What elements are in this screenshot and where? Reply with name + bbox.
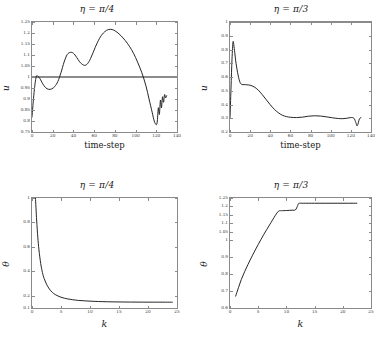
plot-area: 0.750.80.850.90.9511.051.11.151.21.25020… (31, 21, 178, 133)
y-axis-label: θ (1, 261, 11, 266)
y-tick-label: 0.5 (221, 89, 228, 93)
y-tick-mark (230, 274, 233, 275)
y-tick-mark (369, 215, 372, 216)
figure-container: η = π/4 u 0.750.80.850.90.9511.051.11.15… (0, 0, 388, 352)
x-tick-mark (250, 130, 251, 133)
y-tick-label: 1.05 (219, 230, 228, 234)
x-tick-mark (177, 130, 178, 133)
y-tick-label: 1.1 (221, 221, 228, 225)
x-tick-mark (177, 198, 178, 201)
y-tick-mark (32, 88, 35, 89)
x-tick-label: 25 (368, 310, 373, 314)
x-tick-mark (315, 198, 316, 201)
y-tick-label: 0.8 (23, 119, 30, 123)
y-tick-mark (175, 66, 178, 67)
y-tick-mark (369, 206, 372, 207)
x-tick-mark (331, 22, 332, 25)
y-tick-label: 0.4 (23, 269, 30, 273)
y-tick-mark (369, 36, 372, 37)
y-tick-label: 0.6 (221, 75, 228, 79)
x-tick-mark (230, 22, 231, 25)
x-tick-mark (270, 22, 271, 25)
x-axis-label: k (229, 318, 372, 329)
x-tick-label: 140 (173, 134, 181, 138)
subplot-title: η = π/4 (0, 4, 194, 14)
subplot-bottom-left: η = π/4 θ 0.10.20.40.60.810510152025 k (0, 176, 194, 352)
y-tick-mark (175, 110, 178, 111)
x-tick-mark (258, 306, 259, 309)
y-tick-mark (32, 77, 35, 78)
y-tick-mark (230, 63, 233, 64)
x-tick-mark (177, 306, 178, 309)
x-tick-mark (177, 22, 178, 25)
y-tick-mark (175, 121, 178, 122)
x-tick-mark (32, 198, 33, 201)
y-tick-mark (175, 247, 178, 248)
y-tick-label: 0.4 (221, 102, 228, 106)
y-tick-label: 1.25 (219, 196, 228, 200)
x-tick-label: 100 (132, 134, 140, 138)
y-tick-mark (230, 77, 233, 78)
y-tick-label: 0.9 (23, 97, 30, 101)
x-tick-label: 5 (257, 310, 260, 314)
y-tick-mark (32, 271, 35, 272)
y-tick-mark (369, 291, 372, 292)
curve-svg (230, 22, 371, 132)
y-tick-mark (175, 222, 178, 223)
x-tick-mark (315, 306, 316, 309)
x-tick-label: 20 (50, 134, 55, 138)
x-tick-mark (351, 22, 352, 25)
x-tick-mark (61, 306, 62, 309)
x-tick-mark (94, 130, 95, 133)
subplot-bottom-right: η = π/3 θ 0.60.70.80.911.051.11.151.21.2… (194, 176, 388, 352)
y-tick-mark (32, 66, 35, 67)
y-tick-mark (32, 110, 35, 111)
eta-value: π/3 (293, 180, 308, 190)
y-tick-mark (230, 215, 233, 216)
x-tick-label: 40 (268, 134, 273, 138)
y-tick-mark (369, 77, 372, 78)
y-tick-label: 0.8 (221, 47, 228, 51)
x-tick-mark (286, 306, 287, 309)
y-axis-label: u (1, 85, 11, 91)
y-tick-label: 1.15 (219, 213, 228, 217)
x-tick-label: 15 (312, 310, 317, 314)
x-tick-mark (32, 22, 33, 25)
x-tick-mark (230, 198, 231, 201)
y-tick-label: 0.7 (221, 61, 228, 65)
plot-area: 0.60.70.80.911.051.11.151.21.25051015202… (229, 197, 372, 309)
curve-svg (230, 198, 371, 308)
x-tick-label: 15 (116, 310, 121, 314)
y-tick-mark (230, 291, 233, 292)
y-tick-label: 0.85 (21, 108, 30, 112)
x-tick-mark (290, 22, 291, 25)
equals-sign: = (279, 4, 293, 14)
y-tick-mark (230, 206, 233, 207)
x-tick-label: 10 (284, 310, 289, 314)
x-tick-mark (250, 22, 251, 25)
x-tick-label: 20 (340, 310, 345, 314)
y-tick-label: 1 (225, 20, 228, 24)
equals-sign: = (85, 4, 99, 14)
y-tick-mark (230, 91, 233, 92)
x-tick-mark (156, 130, 157, 133)
x-tick-mark (343, 306, 344, 309)
x-tick-mark (53, 130, 54, 133)
x-tick-label: 25 (174, 310, 179, 314)
x-tick-mark (343, 198, 344, 201)
y-tick-label: 0.2 (23, 294, 30, 298)
y-tick-mark (369, 232, 372, 233)
y-tick-mark (369, 105, 372, 106)
y-tick-mark (175, 296, 178, 297)
y-tick-mark (32, 33, 35, 34)
y-tick-mark (175, 44, 178, 45)
x-tick-mark (94, 22, 95, 25)
y-tick-mark (369, 118, 372, 119)
y-tick-mark (175, 99, 178, 100)
x-tick-mark (136, 130, 137, 133)
y-tick-mark (230, 232, 233, 233)
y-axis-label: u (199, 85, 209, 91)
x-tick-label: 80 (112, 134, 117, 138)
y-tick-mark (175, 77, 178, 78)
x-tick-label: 140 (367, 134, 375, 138)
